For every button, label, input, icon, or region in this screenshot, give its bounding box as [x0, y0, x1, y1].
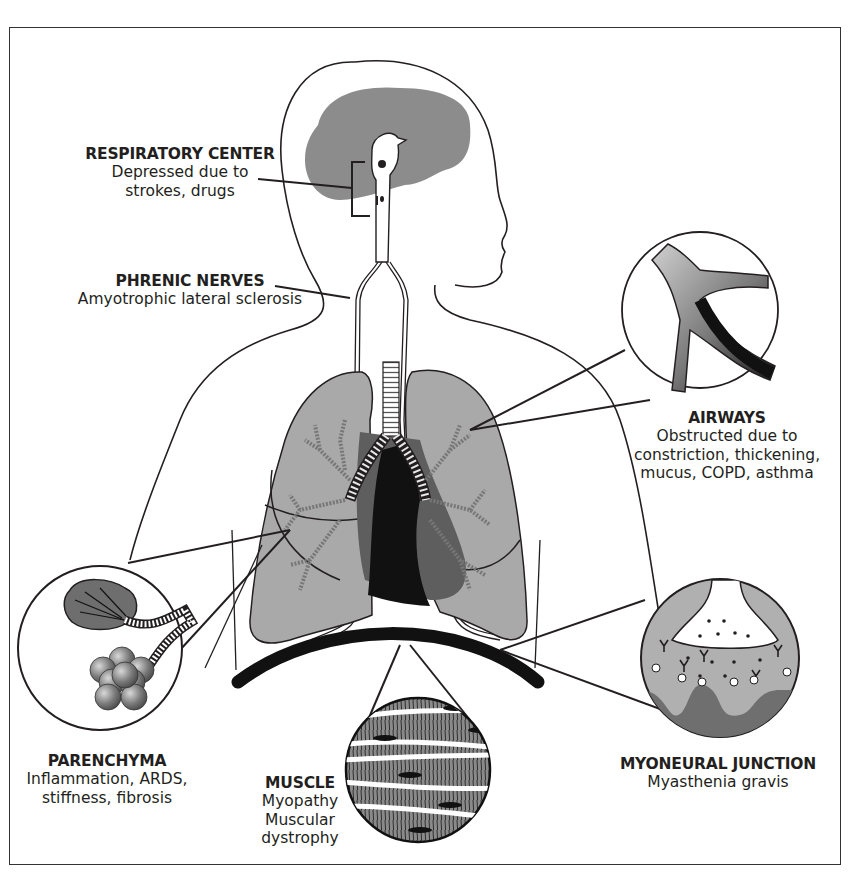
label-respiratory-center: RESPIRATORY CENTER Depressed due to stro…: [70, 145, 290, 200]
label-phrenic-nerves: PHRENIC NERVES Amyotrophic lateral scler…: [60, 272, 320, 309]
phrenic-nerves-title: PHRENIC NERVES: [60, 272, 320, 290]
parenchyma-desc: Inflammation, ARDS, stiffness, fibrosis: [22, 770, 192, 807]
label-airways: AIRWAYS Obstructed due to constriction, …: [622, 409, 832, 482]
label-myoneural-junction: MYONEURAL JUNCTION Myasthenia gravis: [608, 755, 828, 792]
airways-desc: Obstructed due to constriction, thickeni…: [622, 427, 832, 482]
respiratory-center-title: RESPIRATORY CENTER: [70, 145, 290, 163]
trachea: [383, 362, 399, 436]
myoneural-junction-title: MYONEURAL JUNCTION: [608, 755, 828, 773]
respiratory-center-desc: Depressed due to strokes, drugs: [70, 163, 290, 200]
myoneural-junction-desc: Myasthenia gravis: [608, 773, 828, 791]
airways-title: AIRWAYS: [622, 409, 832, 427]
label-muscle: MUSCLE Myopathy Muscular dystrophy: [225, 774, 375, 847]
right-lung: [250, 372, 372, 643]
muscle-title: MUSCLE: [225, 774, 375, 792]
parenchyma-title: PARENCHYMA: [22, 752, 192, 770]
phrenic-nerves-desc: Amyotrophic lateral sclerosis: [60, 290, 320, 308]
airways-inset: [622, 232, 778, 392]
myoneural-junction-inset: [640, 579, 800, 760]
parenchyma-inset: [18, 566, 192, 730]
label-parenchyma: PARENCHYMA Inflammation, ARDS, stiffness…: [22, 752, 192, 807]
muscle-desc: Myopathy Muscular dystrophy: [225, 792, 375, 847]
